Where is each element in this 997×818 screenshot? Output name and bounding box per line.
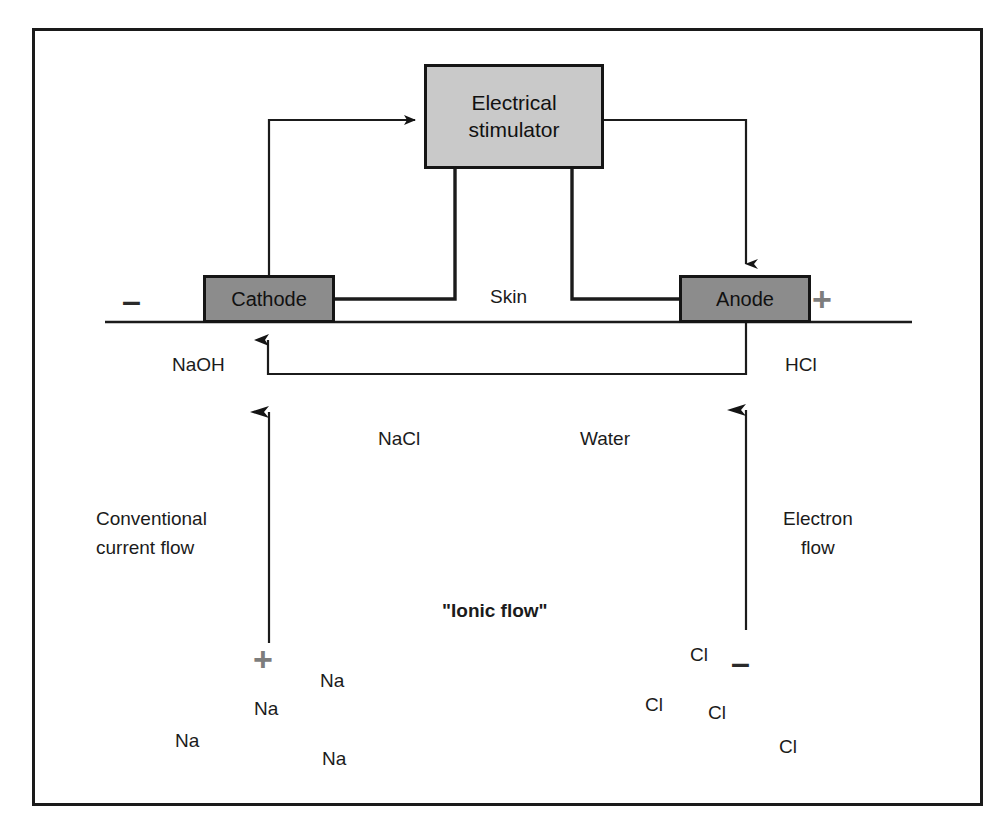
sodium-charge-plus-sign: + bbox=[253, 642, 273, 676]
nacl-label: NaCl bbox=[378, 428, 420, 450]
anode-polarity-plus-sign: + bbox=[812, 282, 832, 316]
sodium-ion-label: Na bbox=[322, 748, 346, 770]
naoh-label: NaOH bbox=[172, 354, 225, 376]
sodium-ion-label: Na bbox=[254, 698, 278, 720]
chloride-ion-label: Cl bbox=[779, 736, 797, 758]
chloride-charge-minus-sign: – bbox=[731, 645, 750, 679]
ionic-flow-label: "Ionic flow" bbox=[442, 600, 548, 622]
wire-cathode-to-stimulator bbox=[269, 120, 415, 277]
wire-stimulator-right-to-anode bbox=[572, 169, 679, 299]
conventional-current-flow-label: Conventional current flow bbox=[96, 505, 207, 562]
hcl-label: HCl bbox=[785, 354, 817, 376]
water-label: Water bbox=[580, 428, 630, 450]
anode-label: Anode bbox=[716, 288, 774, 311]
diagram-canvas: Electrical stimulator Cathode Anode – + … bbox=[0, 0, 997, 818]
skin-label: Skin bbox=[490, 286, 527, 308]
electron-flow-label: Electron flow bbox=[783, 505, 853, 562]
cathode-electrode-box: Cathode bbox=[203, 275, 335, 323]
sodium-ion-label: Na bbox=[320, 670, 344, 692]
anode-electrode-box: Anode bbox=[679, 275, 811, 323]
electrical-stimulator-box: Electrical stimulator bbox=[424, 64, 604, 169]
chloride-ion-label: Cl bbox=[708, 702, 726, 724]
chloride-ion-label: Cl bbox=[690, 644, 708, 666]
electrical-stimulator-label: Electrical stimulator bbox=[468, 90, 559, 144]
cathode-polarity-minus-sign: – bbox=[122, 283, 141, 317]
sodium-ion-label: Na bbox=[175, 730, 199, 752]
wire-stimulator-to-anode bbox=[604, 120, 746, 264]
chloride-ion-label: Cl bbox=[645, 694, 663, 716]
wire-return-loop bbox=[268, 323, 746, 374]
cathode-label: Cathode bbox=[231, 288, 307, 311]
wire-stimulator-left-to-cathode bbox=[335, 169, 455, 299]
